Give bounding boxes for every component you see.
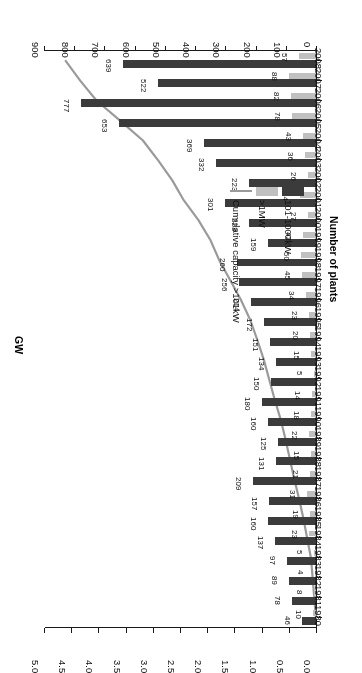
top-tick [316,628,317,633]
bar-value-label: 97 [268,556,277,565]
year-tick [317,259,322,260]
bar-value-label: 180 [243,397,252,410]
bar-value-label: 160 [249,517,258,530]
year-label-1986: 1986 [313,486,324,507]
year-label-1999: 1999 [313,227,324,248]
bottom-tick-label: 500 [151,42,162,58]
year-tick [317,159,322,160]
top-tick [153,628,154,633]
bottom-tick-label: 900 [30,42,41,58]
year-tick [317,279,322,280]
bar-value-label: 172 [245,318,254,331]
legend-line-marker [230,190,252,192]
bar-value-label: 137 [256,536,265,549]
bar-value-label: 10 [294,610,303,619]
bar-value-label: 160 [249,417,258,430]
bottom-tick [135,46,136,51]
top-tick [126,628,127,633]
year-label-1984: 1984 [313,525,324,546]
year-tick [317,199,322,200]
top-tick [234,628,235,633]
bottom-tick [225,46,226,51]
bar-101-1000kw [237,259,316,267]
year-label-1998: 1998 [313,247,324,268]
legend-label: >1MW [257,200,268,228]
bar-value-label: 21 [291,470,300,479]
year-tick [317,60,322,61]
bar-value-label: 159 [249,238,258,251]
legend-item-1[interactable]: 101-1000kW [280,46,304,196]
year-tick [317,418,322,419]
top-tick-label: 4.5 [57,660,68,673]
year-tick [317,458,322,459]
top-tick-label: 0.0 [302,660,313,673]
bar-value-label: 23 [290,311,299,320]
bar-value-label: 20 [291,331,300,340]
year-tick [317,438,322,439]
year-tick [317,378,322,379]
year-label-1983: 1983 [313,545,324,566]
year-label-1982: 1982 [313,565,324,586]
bar-value-label: 639 [104,59,113,72]
year-label-2006: 2006 [313,88,324,109]
bar-value-label: 150 [252,377,261,390]
top-tick-label: 1.0 [248,660,259,673]
top-tick-label: 1.5 [220,660,231,673]
year-label-1996: 1996 [313,287,324,308]
bar-value-label: 522 [139,79,148,92]
legend-swatch-1 [282,187,304,196]
legend-item-3[interactable]: Cumulative capacity >101kW [228,46,252,196]
bar-value-label: 22 [290,431,299,440]
year-tick [317,577,322,578]
bar-value-label: 8 [295,590,304,594]
year-tick [317,319,322,320]
year-tick [317,339,322,340]
top-tick-label: 3.5 [112,660,123,673]
top-tick-label: 5.0 [30,660,41,673]
year-label-1995: 1995 [313,307,324,328]
bottom-tick-label: 800 [60,42,71,58]
year-tick [317,398,322,399]
bar-101-1000kw [239,278,316,286]
year-label-2001: 2001 [313,187,324,208]
year-tick [317,498,322,499]
year-label-1992: 1992 [313,366,324,387]
top-axis-title: GW [13,336,25,354]
bar-value-label: 301 [206,198,215,211]
bottom-tick [165,46,166,51]
year-label-2002: 2002 [313,167,324,188]
year-tick [317,140,322,141]
bar-value-label: 34 [287,291,296,300]
bar-value-label: 209 [234,477,243,490]
top-tick-label: 0.5 [275,660,286,673]
bar-101-1000kw [289,577,316,585]
bar-value-label: 5 [296,371,305,375]
year-label-1988: 1988 [313,446,324,467]
year-tick [317,557,322,558]
year-label-1997: 1997 [313,267,324,288]
top-tick [71,628,72,633]
year-tick [317,358,322,359]
year-tick [317,597,322,598]
bar-value-label: 31 [288,490,297,499]
bar-value-label: 151 [251,338,260,351]
legend-swatch-2 [256,187,278,196]
bar-101-1000kw [253,477,316,485]
bar-value-label: 4 [296,570,305,574]
year-tick [317,120,322,121]
bar-101-1000kw [271,378,316,386]
bar-value-label: 23 [290,530,299,539]
bottom-axis-title: Number of plants [328,216,340,302]
bar-value-label: 653 [100,119,109,132]
bar-value-label: 256 [220,278,229,291]
bottom-tick [104,46,105,51]
year-label-1989: 1989 [313,426,324,447]
bar-value-label: 260 [218,258,227,271]
year-tick [317,617,322,618]
bar-value-label: 125 [259,437,268,450]
bar-value-label: 369 [185,139,194,152]
legend-item-2[interactable]: >1MW [254,46,278,196]
year-label-1991: 1991 [313,386,324,407]
year-tick [317,299,322,300]
